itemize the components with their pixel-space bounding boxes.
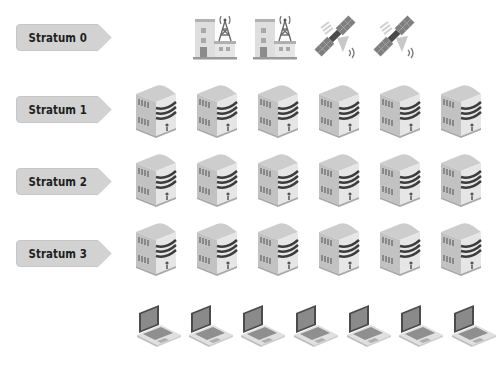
gps-satellite-icon (313, 14, 359, 62)
stratum-3-label: Stratum 3 (16, 240, 112, 267)
server-icon (317, 84, 361, 140)
server-icon (378, 84, 422, 140)
server-icon (134, 222, 178, 278)
server-icon (195, 84, 239, 140)
server-icon (439, 153, 483, 209)
laptop-icon (239, 305, 287, 349)
server-icon (378, 222, 422, 278)
laptop-icon (187, 305, 235, 349)
gps-satellite-icon (372, 14, 418, 62)
laptop-icon (135, 305, 183, 349)
stratum-0-text: Stratum 0 (29, 30, 88, 45)
server-icon (134, 84, 178, 140)
laptop-icon (345, 305, 393, 349)
server-icon (195, 153, 239, 209)
stratum-2-label: Stratum 2 (16, 168, 112, 195)
laptop-icon (450, 305, 498, 349)
radio-tower-building-icon (253, 13, 299, 61)
server-icon (439, 84, 483, 140)
server-icon (195, 222, 239, 278)
server-icon (256, 222, 300, 278)
server-icon (439, 222, 483, 278)
server-icon (256, 153, 300, 209)
stratum-0-label: Stratum 0 (16, 24, 112, 51)
laptop-icon (292, 305, 340, 349)
server-icon (378, 153, 422, 209)
stratum-1-text: Stratum 1 (29, 102, 88, 117)
server-icon (317, 153, 361, 209)
server-icon (256, 84, 300, 140)
laptop-icon (397, 305, 445, 349)
radio-tower-building-icon (193, 13, 239, 61)
server-icon (317, 222, 361, 278)
stratum-1-label: Stratum 1 (16, 96, 112, 123)
server-icon (134, 153, 178, 209)
stratum-2-text: Stratum 2 (29, 174, 88, 189)
stratum-3-text: Stratum 3 (29, 246, 88, 261)
